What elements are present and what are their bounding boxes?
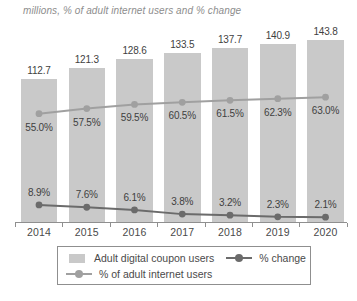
pct-change-point [36,201,43,208]
coupon-users-chart: millions, % of adult internet users and … [0,0,357,301]
legend-item-internet-users: % of adult internet users [66,268,212,280]
internet-users-point [36,110,43,117]
pct-change-marker-icon [226,253,252,263]
pct-change-point [227,212,234,219]
coupon-users-swatch-icon [69,254,85,263]
internet-users-point [83,105,90,112]
legend: Adult digital coupon users % change % of… [57,246,311,285]
pct-change-point [274,213,281,220]
pct-change-point [322,214,329,221]
internet-users-point [227,97,234,104]
legend-row: Adult digital coupon users % change [66,250,310,266]
pct-change-point [131,207,138,214]
legend-row: % of adult internet users [66,266,310,282]
legend-item-coupon-users: Adult digital coupon users [66,252,214,264]
internet-users-point [274,95,281,102]
plot-area: 112.7201455.0%8.9%121.3201557.5%7.6%128.… [0,0,357,245]
legend-label: % of adult internet users [99,268,212,280]
line-layer [0,0,357,245]
pct-change-point [83,204,90,211]
legend-label: % change [259,252,306,264]
internet-users-point [179,99,186,106]
pct-change-point [179,211,186,218]
legend-item-pct-change: % change [226,252,306,264]
internet-users-marker-icon [66,269,92,279]
internet-users-point [131,101,138,108]
legend-label: Adult digital coupon users [94,252,214,264]
internet-users-point [322,94,329,101]
